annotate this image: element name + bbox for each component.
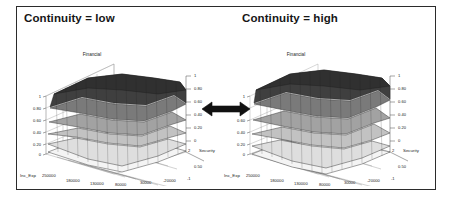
income-axis-title-left: Inc_Exp [20, 173, 36, 178]
sec-tick-left-4: 0.20 [194, 125, 203, 130]
double-headed-arrow-icon [200, 98, 252, 120]
z-tick-left-5: 0 [39, 152, 42, 157]
sec-extra-right-0: 2 [392, 148, 395, 153]
x-tick-right-3: 80000 [319, 182, 331, 186]
financial-axis-title-left: Financial [83, 52, 101, 57]
sec-tick-left-0: 1 [194, 73, 197, 78]
surface-plot-high: Financial 1 0.80 0.60 0.40 0.20 0 1 0.80… [222, 34, 422, 186]
z-tick-right-3: 0.40 [237, 130, 246, 135]
surface-plot-low: Financial 1 0.80 0.60 0.40 0.20 0 1 0.80… [18, 34, 218, 186]
sec-tick-right-0: 1 [398, 73, 401, 78]
sec-tick-right-2: 0.60 [398, 99, 407, 104]
x-tick-left-6: -1 [187, 176, 191, 181]
z-tick-left-1: 0.80 [33, 106, 42, 111]
figure-root: Continuity = low Continuity = high [0, 0, 452, 206]
sec-tick-left-1: 0.80 [194, 86, 203, 91]
sec-tick-right-3: 0.40 [398, 112, 407, 117]
x-tick-right-6: -1 [391, 176, 395, 181]
x-tick-left-5: -20000 [163, 178, 176, 183]
x-tick-left-3: 80000 [115, 182, 127, 186]
panel-title-low: Continuity = low [24, 12, 115, 24]
z-tick-left-3: 0.40 [33, 130, 42, 135]
sec-extra-right-1: 0.50 [398, 164, 407, 169]
z-tick-left-2: 0.60 [33, 118, 42, 123]
arrow-shape [202, 102, 250, 116]
x-tick-left-2: 130000 [90, 181, 104, 186]
sec-tick-right-5: 0 [398, 138, 401, 143]
x-tick-right-4: 30000 [344, 180, 356, 185]
x-tick-right-0: 250000 [246, 173, 260, 178]
x-tick-right-5: -20000 [367, 178, 380, 183]
sec-extra-left-1: 0.50 [194, 164, 203, 169]
x-tick-right-1: 180000 [270, 178, 284, 183]
sec-tick-right-1: 0.80 [398, 86, 407, 91]
x-tick-left-4: 30000 [140, 180, 152, 185]
x-tick-right-2: 130000 [294, 181, 308, 186]
sec-tick-right-4: 0.20 [398, 125, 407, 130]
z-tick-left-0: 1 [39, 94, 42, 99]
z-tick-right-4: 0.20 [237, 142, 246, 147]
sec-tick-left-5: 0 [194, 138, 197, 143]
x-tick-left-0: 250000 [42, 173, 56, 178]
financial-axis-left [43, 96, 46, 155]
income-axis-title-right: Inc_Exp [224, 173, 240, 178]
z-tick-left-4: 0.20 [33, 142, 42, 147]
x-tick-left-1: 180000 [66, 178, 80, 183]
sec-extra-left-0: 2 [188, 148, 191, 153]
panel-title-high: Continuity = high [242, 12, 338, 24]
z-tick-right-5: 0 [243, 152, 246, 157]
financial-axis-title-right: Financial [287, 52, 305, 57]
security-axis-title-left: Security [199, 148, 216, 153]
security-axis-title-right: Security [403, 148, 420, 153]
